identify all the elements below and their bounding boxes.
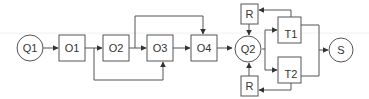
edge-t2-rbottom xyxy=(259,83,291,90)
o1-label: O1 xyxy=(65,42,80,54)
node-s: S xyxy=(329,38,353,62)
q1-label: Q1 xyxy=(23,42,38,54)
edge-t1-rtop xyxy=(259,10,291,17)
edge-q2-t2 xyxy=(265,49,277,70)
t1-label: T1 xyxy=(285,28,298,40)
node-o2: O2 xyxy=(103,35,129,61)
flow-diagram: Q1 O1 O2 O3 O4 Q2 R R T1 T2 S xyxy=(0,0,369,99)
r-top-label: R xyxy=(246,8,254,20)
node-r-bottom: R xyxy=(241,76,258,96)
q2-label: Q2 xyxy=(241,43,256,55)
node-q1: Q1 xyxy=(17,35,43,61)
node-o1: O1 xyxy=(59,35,85,61)
node-q2: Q2 xyxy=(235,36,261,62)
o2-label: O2 xyxy=(109,42,124,54)
node-t1: T1 xyxy=(278,17,301,43)
t2-label: T2 xyxy=(285,68,298,80)
node-r-top: R xyxy=(241,4,258,24)
node-t2: T2 xyxy=(278,57,301,83)
r-bottom-label: R xyxy=(246,80,254,92)
o4-label: O4 xyxy=(197,42,212,54)
node-o4: O4 xyxy=(191,35,217,61)
s-label: S xyxy=(337,44,344,56)
node-o3: O3 xyxy=(147,35,173,61)
o3-label: O3 xyxy=(153,42,168,54)
